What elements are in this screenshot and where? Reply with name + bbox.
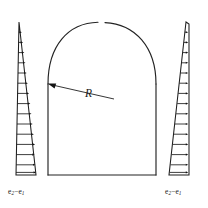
pressure-arrow [171, 164, 189, 166]
radius-dimension [48, 83, 114, 99]
pressure-arrow [177, 103, 188, 105]
radius-arrow-head [48, 83, 57, 88]
pressure-arrow [176, 113, 188, 115]
pressure-arrow [178, 92, 188, 94]
pressure-arrow [175, 123, 188, 125]
left-lateral-pressure-wedge [16, 22, 36, 175]
pressure-arrow [18, 92, 30, 94]
pressure-arrow [16, 164, 35, 166]
pressure-arrow [183, 52, 189, 54]
pressure-arrow [172, 154, 189, 156]
pressure-arrow [184, 41, 188, 43]
tunnel-arch-outline [48, 22, 156, 175]
pressure-arrow [182, 62, 189, 64]
right-lateral-pressure-wedge [169, 22, 189, 175]
right-wedge-outline [169, 22, 189, 175]
figure-canvas: R e2−e1 e2−e1 [0, 0, 208, 208]
pressure-arrow [170, 171, 188, 173]
pressure-arrow [179, 82, 188, 84]
right-wedge-arrows [170, 31, 188, 173]
pressure-arrow [19, 41, 24, 43]
right-load-label: e2−e1 [165, 188, 182, 195]
radius-label: R [85, 88, 92, 100]
arch-crown-right [105, 23, 156, 84]
arch-crown-left [48, 22, 98, 84]
left-load-label: e2−e1 [8, 188, 25, 195]
pressure-arrow [181, 72, 189, 74]
pressure-arrow [18, 72, 27, 74]
pressure-arrow [17, 103, 30, 105]
pressure-arrow [17, 123, 33, 125]
pressure-arrow [174, 133, 188, 135]
pressure-arrow [16, 154, 34, 156]
pressure-arrow [17, 113, 31, 115]
pressure-arrow [173, 143, 188, 145]
pressure-arrow [16, 171, 36, 173]
diagram-svg [0, 0, 208, 208]
pressure-arrow [18, 52, 24, 54]
pressure-arrow [18, 62, 25, 64]
left-wedge-outline [16, 22, 36, 175]
radius-leader-line [52, 85, 115, 99]
